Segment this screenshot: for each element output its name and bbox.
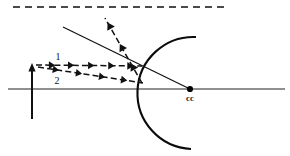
normal-line-through-center [63, 27, 190, 89]
ray-diagram-figure: 1 2 cc [0, 0, 290, 156]
center-of-curvature-label: cc [186, 93, 194, 103]
ray-arrowhead [107, 23, 115, 31]
ray-arrowhead [68, 61, 74, 69]
ray-arrowhead [121, 76, 128, 84]
object-arrow [28, 63, 35, 119]
ray-arrowhead [108, 62, 114, 70]
ray-arrowhead [98, 73, 105, 81]
ray-1-label: 1 [56, 51, 61, 62]
ray-arrowhead [88, 62, 94, 70]
center-of-curvature-point [187, 86, 193, 92]
object-arrow-head [28, 63, 35, 72]
ray-arrowhead [52, 65, 59, 73]
ray-diagram-canvas: 1 2 cc [0, 0, 290, 156]
ray-2-label: 2 [55, 75, 60, 86]
ray-arrowhead [75, 69, 82, 77]
